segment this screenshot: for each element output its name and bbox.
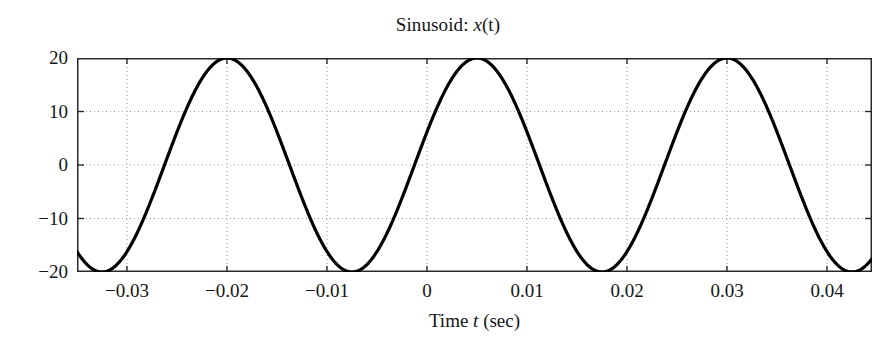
y-tick-label: 0 [59, 154, 69, 176]
chart-title-suffix: (t) [482, 14, 500, 35]
x-axis-tick-labels: −0.03−0.02−0.0100.010.020.030.04 [77, 280, 872, 306]
plot-area [77, 58, 872, 272]
x-tick-label: −0.01 [305, 280, 349, 302]
y-tick-label: 10 [49, 101, 68, 123]
gridlines [78, 59, 871, 271]
x-axis-label-prefix: Time [429, 310, 473, 331]
chart-title-prefix: Sinusoid: [396, 14, 474, 35]
y-tick-label: 20 [49, 47, 68, 69]
y-tick-label: −10 [38, 208, 68, 230]
x-tick-label: 0.04 [810, 280, 843, 302]
y-tick-label: −20 [38, 261, 68, 283]
x-axis-label: Time t (sec) [77, 310, 872, 332]
chart-title: Sinusoid: x(t) [0, 14, 896, 36]
x-tick-label: −0.02 [205, 280, 249, 302]
chart-title-symbol: x [473, 14, 482, 35]
y-axis-tick-labels: 20100−10−20 [14, 58, 68, 272]
x-tick-label: 0 [422, 280, 432, 302]
x-tick-label: −0.03 [105, 280, 149, 302]
x-tick-label: 0.02 [610, 280, 643, 302]
sinusoid-figure: Sinusoid: x(t) 20100−10−20 −0.03−0.02−0.… [0, 0, 896, 351]
x-axis-label-suffix: (sec) [478, 310, 520, 331]
x-tick-label: 0.03 [710, 280, 743, 302]
x-tick-label: 0.01 [510, 280, 543, 302]
plot-svg [77, 58, 872, 272]
